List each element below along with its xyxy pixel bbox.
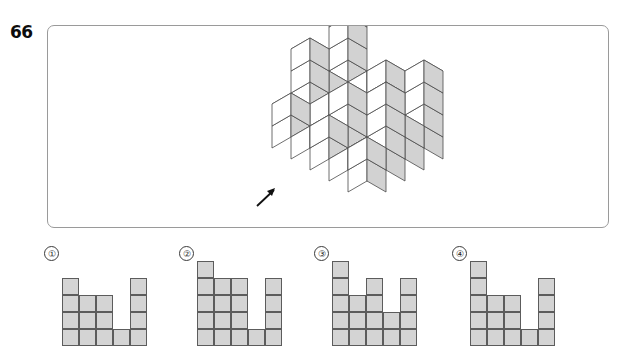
grid-cell-empty <box>487 278 504 295</box>
view-direction-arrow <box>257 188 275 206</box>
grid-cell-filled <box>130 312 147 329</box>
grid-cell-empty <box>79 278 96 295</box>
grid-cell-filled <box>470 278 487 295</box>
grid-cell-filled <box>332 261 349 278</box>
grid-cell-empty <box>231 261 248 278</box>
grid-cell-filled <box>96 329 113 346</box>
grid-cell-empty <box>366 261 383 278</box>
question-number: 66 <box>10 22 33 42</box>
option-2[interactable]: ② <box>175 243 325 353</box>
figure-panel <box>47 25 609 228</box>
grid-cell-filled <box>521 329 538 346</box>
grid-cell-empty <box>113 278 130 295</box>
grid-cell-filled <box>487 312 504 329</box>
grid-cell-filled <box>366 312 383 329</box>
grid-cell-filled <box>332 278 349 295</box>
grid-cell-empty <box>113 295 130 312</box>
grid-cell-empty <box>383 261 400 278</box>
grid-cell-filled <box>470 261 487 278</box>
grid-cell-filled <box>487 329 504 346</box>
grid-cell-filled <box>130 295 147 312</box>
grid-cell-empty <box>349 278 366 295</box>
grid-cell-empty <box>538 261 555 278</box>
grid-cell-filled <box>79 312 96 329</box>
grid-cell-filled <box>383 329 400 346</box>
grid-cell-empty <box>383 295 400 312</box>
grid-cell-filled <box>400 278 417 295</box>
option-1[interactable]: ① <box>40 243 190 353</box>
grid-cell-filled <box>248 329 265 346</box>
grid-cell-empty <box>113 312 130 329</box>
grid-cell-empty <box>248 295 265 312</box>
grid-cell-filled <box>197 278 214 295</box>
grid-cell-filled <box>383 312 400 329</box>
grid-cell-filled <box>113 329 130 346</box>
grid-cell-filled <box>470 329 487 346</box>
grid-cell-filled <box>231 312 248 329</box>
isometric-cube-stack <box>48 26 610 229</box>
grid-cell-empty <box>214 261 231 278</box>
grid-cell-empty <box>521 278 538 295</box>
grid-cell-filled <box>504 312 521 329</box>
grid-cell-filled <box>62 295 79 312</box>
option-3[interactable]: ③ <box>310 243 460 353</box>
option-2-grid <box>197 261 282 346</box>
grid-cell-filled <box>265 329 282 346</box>
grid-cell-filled <box>349 312 366 329</box>
grid-cell-empty <box>96 278 113 295</box>
grid-cell-filled <box>400 329 417 346</box>
grid-cell-filled <box>538 329 555 346</box>
grid-cell-filled <box>197 329 214 346</box>
grid-cell-filled <box>265 312 282 329</box>
grid-cell-filled <box>400 295 417 312</box>
grid-cell-filled <box>504 329 521 346</box>
grid-cell-empty <box>248 261 265 278</box>
grid-cell-filled <box>332 329 349 346</box>
grid-cell-filled <box>487 295 504 312</box>
option-4-label: ④ <box>452 246 467 261</box>
grid-cell-filled <box>96 312 113 329</box>
grid-cell-filled <box>470 295 487 312</box>
grid-cell-filled <box>214 329 231 346</box>
grid-cell-filled <box>366 278 383 295</box>
grid-cell-filled <box>400 312 417 329</box>
grid-cell-filled <box>366 295 383 312</box>
grid-cell-filled <box>470 312 487 329</box>
grid-cell-filled <box>538 295 555 312</box>
grid-cell-filled <box>366 329 383 346</box>
grid-cell-filled <box>79 295 96 312</box>
grid-cell-filled <box>197 312 214 329</box>
grid-cell-filled <box>538 312 555 329</box>
option-3-grid <box>332 261 417 346</box>
grid-cell-filled <box>538 278 555 295</box>
grid-cell-empty <box>248 312 265 329</box>
grid-cell-filled <box>231 295 248 312</box>
option-1-grid <box>62 278 147 346</box>
grid-cell-filled <box>265 278 282 295</box>
grid-cell-filled <box>349 329 366 346</box>
grid-cell-empty <box>521 312 538 329</box>
grid-cell-filled <box>62 312 79 329</box>
grid-cell-filled <box>231 329 248 346</box>
grid-cell-filled <box>130 278 147 295</box>
grid-cell-empty <box>504 261 521 278</box>
grid-cell-filled <box>214 278 231 295</box>
grid-cell-empty <box>521 261 538 278</box>
answer-options-row: ①②③④ <box>0 243 621 353</box>
grid-cell-filled <box>214 312 231 329</box>
grid-cell-filled <box>197 295 214 312</box>
grid-cell-empty <box>265 261 282 278</box>
option-3-label: ③ <box>314 246 329 261</box>
grid-cell-filled <box>231 278 248 295</box>
grid-cell-filled <box>62 278 79 295</box>
grid-cell-filled <box>197 261 214 278</box>
grid-cell-empty <box>521 295 538 312</box>
grid-cell-empty <box>248 278 265 295</box>
option-4-grid <box>470 261 555 346</box>
option-4[interactable]: ④ <box>448 243 598 353</box>
grid-cell-filled <box>96 295 113 312</box>
grid-cell-filled <box>79 329 96 346</box>
grid-cell-empty <box>349 261 366 278</box>
option-2-label: ② <box>179 246 194 261</box>
option-1-label: ① <box>44 246 59 261</box>
